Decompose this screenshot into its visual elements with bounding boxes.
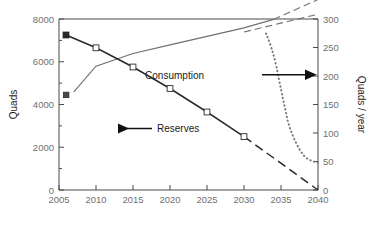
right-axis-ticks <box>313 19 318 190</box>
consumption-start-marker <box>64 92 69 97</box>
right-tick-label: 300 <box>323 14 339 25</box>
reserves-line-dashed <box>244 137 318 190</box>
left-tick-labels: 8000 6000 4000 2000 0 <box>33 14 54 196</box>
x-tick-label: 2040 <box>307 194 328 205</box>
x-tick-label: 2025 <box>196 194 217 205</box>
left-tick-label: 8000 <box>33 14 54 25</box>
right-tick-label: 250 <box>323 42 339 53</box>
x-tick-label: 2005 <box>48 194 69 205</box>
right-tick-label: 100 <box>323 128 339 139</box>
left-axis-ticks <box>59 19 64 190</box>
right-axis-title: Quads / year <box>356 76 367 134</box>
x-tick-label: 2035 <box>270 194 291 205</box>
left-axis-title: Quads <box>8 90 19 119</box>
right-tick-label: 200 <box>323 71 339 82</box>
left-tick-label: 6000 <box>33 56 54 67</box>
x-tick-label: 2030 <box>233 194 254 205</box>
x-tick-label: 2010 <box>85 194 106 205</box>
reserves-annotation-label: Reserves <box>157 123 199 134</box>
consumption-line-solid <box>74 19 274 92</box>
right-tick-labels: 300 250 200 150 100 50 0 <box>323 14 339 196</box>
chart-svg: 8000 6000 4000 2000 0 Quads 300 250 200 … <box>0 0 370 233</box>
x-tick-label: 2015 <box>122 194 143 205</box>
consumption-collapse-dotted <box>266 34 318 163</box>
consumption-annotation: Consumption <box>145 70 305 81</box>
left-tick-label: 2000 <box>33 142 54 153</box>
x-tick-label: 2020 <box>159 194 180 205</box>
consumption-line-dashed <box>274 0 318 19</box>
consumption-extrapolation-branch <box>244 14 318 32</box>
x-axis-ticks <box>59 185 318 190</box>
consumption-annotation-label: Consumption <box>145 70 204 81</box>
left-tick-label: 4000 <box>33 99 54 110</box>
x-tick-labels: 2005 2010 2015 2020 2025 2030 2035 2040 <box>48 194 328 205</box>
figure-container: 8000 6000 4000 2000 0 Quads 300 250 200 … <box>0 0 370 233</box>
right-tick-label: 150 <box>323 99 339 110</box>
right-tick-label: 50 <box>323 156 334 167</box>
reserves-annotation: Reserves <box>118 123 199 134</box>
